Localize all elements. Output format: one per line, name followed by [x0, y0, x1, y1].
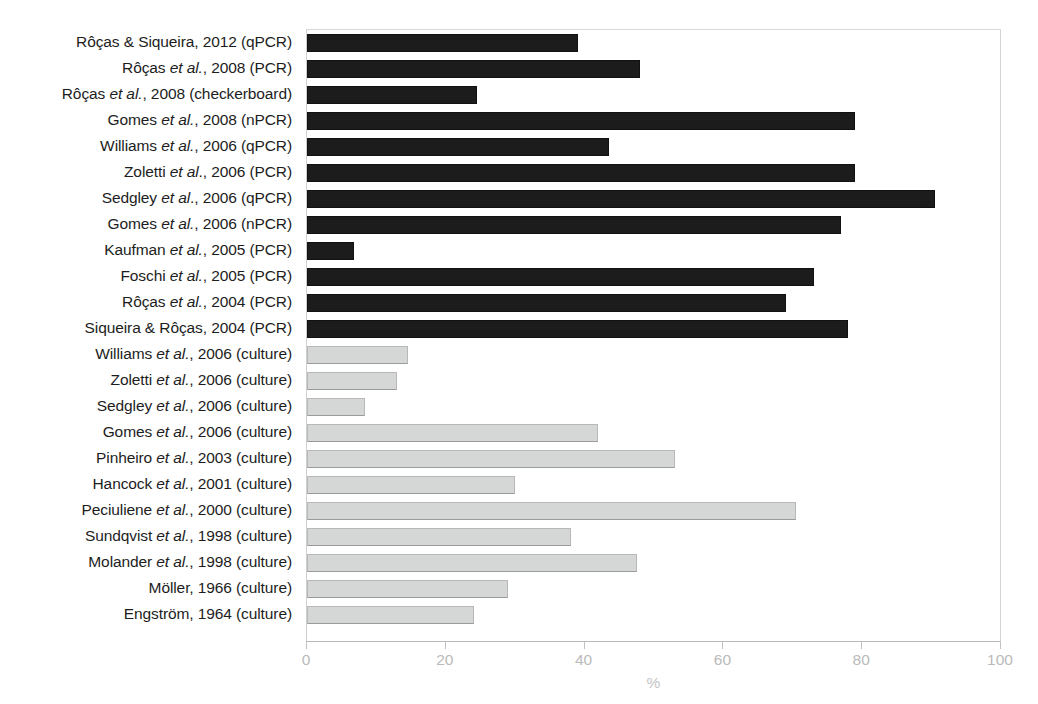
bar-row: [307, 212, 1000, 238]
label-text-italic: et al.: [161, 215, 194, 232]
bar-row: [307, 420, 1000, 446]
label-text: Gomes: [103, 423, 157, 440]
category-label: Rôças & Siqueira, 2012 (qPCR): [0, 29, 300, 55]
label-text-italic: et al.: [161, 137, 194, 154]
label-text: Gomes: [108, 111, 162, 128]
label-text: Foschi: [120, 267, 169, 284]
category-label: Engström, 1964 (culture): [0, 601, 300, 627]
label-text: Zoletti: [111, 371, 157, 388]
bar: [307, 86, 477, 104]
bar-row: [307, 342, 1000, 368]
label-text-italic: et al.: [156, 371, 189, 388]
label-text-italic: et al.: [170, 293, 203, 310]
category-label: Möller, 1966 (culture): [0, 575, 300, 601]
category-label: Foschi et al., 2005 (PCR): [0, 263, 300, 289]
bar: [307, 554, 637, 572]
label-text-italic: et al.: [156, 527, 189, 544]
label-text: Rôças: [122, 59, 170, 76]
x-tick-mark: [1000, 642, 1001, 649]
label-text-italic: et al.: [156, 345, 189, 362]
label-text: Rôças & Siqueira, 2012 (qPCR): [76, 33, 292, 50]
label-text-italic: et al.: [156, 475, 189, 492]
bar-row: [307, 368, 1000, 394]
label-text: , 2006 (culture): [189, 423, 292, 440]
bar-row: [307, 30, 1000, 56]
bar: [307, 372, 397, 390]
label-text: Williams: [100, 137, 161, 154]
bar: [307, 112, 855, 130]
x-tick-mark: [306, 642, 307, 649]
label-text: , 1998 (culture): [189, 553, 292, 570]
bar: [307, 320, 848, 338]
category-label: Sedgley et al., 2006 (qPCR): [0, 185, 300, 211]
bar-row: [307, 446, 1000, 472]
bar-row: [307, 498, 1000, 524]
category-label: Gomes et al., 2006 (culture): [0, 419, 300, 445]
x-tick-mark: [584, 642, 585, 649]
label-text: , 2006 (culture): [189, 371, 292, 388]
category-axis-labels: Rôças & Siqueira, 2012 (qPCR)Rôças et al…: [0, 29, 300, 627]
label-text: , 2008 (PCR): [203, 59, 292, 76]
label-text: , 2000 (culture): [189, 501, 292, 518]
x-tick-label: 60: [714, 651, 731, 669]
category-label: Zoletti et al., 2006 (PCR): [0, 159, 300, 185]
label-text: , 2006 (culture): [189, 345, 292, 362]
bar-row: [307, 238, 1000, 264]
bar-row: [307, 550, 1000, 576]
bar-row: [307, 160, 1000, 186]
bar-row: [307, 602, 1000, 628]
x-tick-label: 100: [987, 651, 1013, 669]
bar: [307, 424, 598, 442]
bar: [307, 398, 365, 416]
label-text: , 2006 (nPCR): [194, 215, 292, 232]
category-label: Rôças et al., 2008 (PCR): [0, 55, 300, 81]
category-label: Sundqvist et al., 1998 (culture): [0, 523, 300, 549]
category-label: Pinheiro et al., 2003 (culture): [0, 445, 300, 471]
bar: [307, 60, 640, 78]
label-text: , 2005 (PCR): [203, 241, 292, 258]
x-tick-label: 40: [575, 651, 592, 669]
category-label: Williams et al., 2006 (culture): [0, 341, 300, 367]
label-text: , 2006 (qPCR): [194, 137, 292, 154]
bar: [307, 138, 609, 156]
category-label: Rôças et al., 2004 (PCR): [0, 289, 300, 315]
bar-row: [307, 56, 1000, 82]
category-label: Peciuliene et al., 2000 (culture): [0, 497, 300, 523]
bar: [307, 528, 571, 546]
bar-row: [307, 134, 1000, 160]
x-tick-mark: [445, 642, 446, 649]
label-text: Sedgley: [102, 189, 162, 206]
bar: [307, 34, 578, 52]
label-text: Hancock: [93, 475, 157, 492]
category-label: Molander et al., 1998 (culture): [0, 549, 300, 575]
label-text: , 2003 (culture): [189, 449, 292, 466]
category-label: Siqueira & Rôças, 2004 (PCR): [0, 315, 300, 341]
bar-row: [307, 316, 1000, 342]
label-text-italic: et al.: [170, 267, 203, 284]
category-label: Rôças et al., 2008 (checkerboard): [0, 81, 300, 107]
label-text-italic: et al.: [156, 449, 189, 466]
category-label: Gomes et al., 2008 (nPCR): [0, 107, 300, 133]
label-text: ., 2006 (qPCR): [190, 189, 292, 206]
bar: [307, 476, 515, 494]
x-tick-label: 20: [436, 651, 453, 669]
bar: [307, 216, 841, 234]
bar: [307, 580, 508, 598]
category-label: Zoletti et al., 2006 (culture): [0, 367, 300, 393]
label-text: Molander: [88, 553, 156, 570]
category-label: Gomes et al., 2006 (nPCR): [0, 211, 300, 237]
plot-area: [306, 29, 1001, 642]
bar-row: [307, 394, 1000, 420]
bar: [307, 164, 855, 182]
bar-row: [307, 290, 1000, 316]
label-text: ., 2006 (PCR): [199, 163, 292, 180]
label-text-italic: et al: [161, 189, 190, 206]
label-text: Rôças: [122, 293, 170, 310]
label-text: , 2001 (culture): [189, 475, 292, 492]
label-text: Möller, 1966 (culture): [149, 579, 292, 596]
x-axis-title: %: [306, 674, 1001, 692]
category-label: Sedgley et al., 2006 (culture): [0, 393, 300, 419]
label-text-italic: et al.: [156, 423, 189, 440]
bar-row: [307, 82, 1000, 108]
label-text: Williams: [95, 345, 156, 362]
